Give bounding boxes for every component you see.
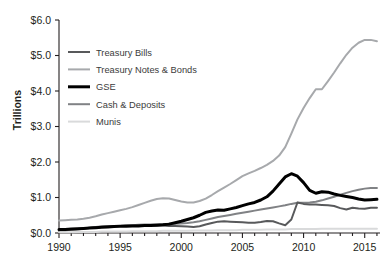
y-tick-label: $2.0 — [31, 156, 52, 168]
line-chart: $0.0$1.0$2.0$3.0$4.0$5.0$6.0 19901995200… — [0, 0, 386, 261]
y-axis-ticks: $0.0$1.0$2.0$3.0$4.0$5.0$6.0 — [31, 14, 59, 239]
chart-legend: Treasury BillsTreasury Notes & BondsGSEC… — [68, 48, 197, 128]
y-tick-label: $6.0 — [31, 14, 52, 26]
x-tick-label: 2000 — [170, 241, 194, 253]
legend-label: Treasury Notes & Bonds — [96, 65, 197, 75]
y-tick-label: $4.0 — [31, 85, 52, 97]
y-tick-label: $0.0 — [31, 227, 52, 239]
legend-label: Munis — [96, 117, 121, 127]
y-tick-label: $1.0 — [31, 191, 52, 203]
chart-container: $0.0$1.0$2.0$3.0$4.0$5.0$6.0 19901995200… — [0, 0, 386, 261]
x-axis-ticks: 199019952000200520102015 — [47, 233, 377, 253]
y-axis-title: Trillions — [11, 67, 23, 153]
x-tick-label: 1990 — [47, 241, 71, 253]
legend-label: Treasury Bills — [96, 48, 152, 58]
series-line — [59, 229, 377, 233]
legend-label: GSE — [96, 82, 116, 92]
x-tick-label: 1995 — [108, 241, 132, 253]
legend-label: Cash & Deposits — [96, 100, 166, 110]
x-tick-label: 2010 — [292, 241, 316, 253]
x-tick-label: 2015 — [353, 241, 377, 253]
y-tick-label: $3.0 — [31, 120, 52, 132]
y-tick-label: $5.0 — [31, 49, 52, 61]
x-tick-label: 2005 — [231, 241, 255, 253]
